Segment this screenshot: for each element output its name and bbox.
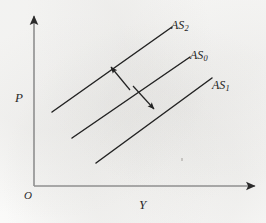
shift-arrows-group [111, 67, 154, 109]
curve-as0 [72, 57, 190, 138]
origin-label: O [24, 190, 32, 201]
supply-curves-group [52, 27, 212, 163]
curve-label-as1-text: AS [212, 78, 225, 92]
shift-arrow-up-left-icon [111, 67, 130, 90]
curve-as1 [96, 78, 212, 163]
curve-label-as1: AS1 [212, 79, 230, 91]
curve-label-as0-subscript: 0 [204, 54, 208, 63]
x-axis-label: Y [139, 198, 146, 211]
curve-label-as0-text: AS [190, 48, 203, 62]
aggregate-supply-figure: P Y O AS2 AS0 AS1 [0, 0, 266, 223]
curve-label-as0: AS0 [190, 49, 208, 61]
curve-label-as1-subscript: 1 [226, 84, 230, 93]
paper-speck [181, 158, 183, 161]
curve-label-as2-text: AS [171, 18, 184, 32]
plot-canvas [0, 0, 266, 223]
curve-as2 [52, 27, 172, 112]
curve-label-as2-subscript: 2 [185, 24, 189, 33]
curve-label-as2: AS2 [171, 19, 189, 31]
y-axis-label: P [15, 91, 23, 104]
